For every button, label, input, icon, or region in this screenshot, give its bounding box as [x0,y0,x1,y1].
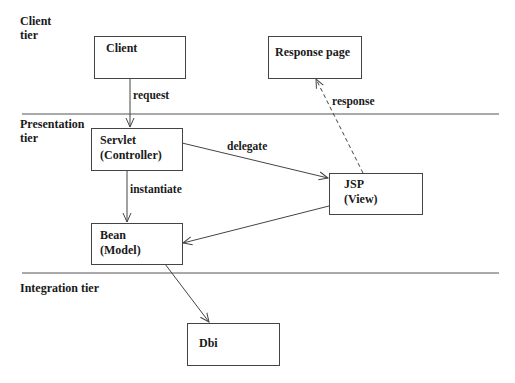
edge-jsp-to-bean [183,206,329,243]
node-jsp: JSP (View) [329,173,423,215]
tier-label-client: Client tier [20,14,51,42]
node-servlet-label: Servlet (Controller) [100,133,162,163]
tier-label-presentation: Presentation tier [20,117,84,145]
node-dbi-label: Dbi [199,336,218,351]
node-bean: Bean (Model) [91,223,183,265]
edge-label-delegate: delegate [227,140,267,153]
node-bean-label: Bean (Model) [100,228,141,258]
node-jsp-label: JSP (View) [344,177,378,207]
node-response-page-label: Response page [275,45,350,60]
node-dbi: Dbi [187,323,280,366]
edge-label-request: request [133,89,169,102]
node-servlet: Servlet (Controller) [91,128,183,171]
node-client-label: Client [106,41,137,56]
edge-label-response: response [332,95,375,108]
node-client: Client [94,36,186,79]
node-response-page: Response page [268,36,362,79]
edge-label-instantiate: instantiate [130,183,182,196]
tier-label-integration: Integration tier [20,281,99,295]
edge-response [316,79,363,173]
